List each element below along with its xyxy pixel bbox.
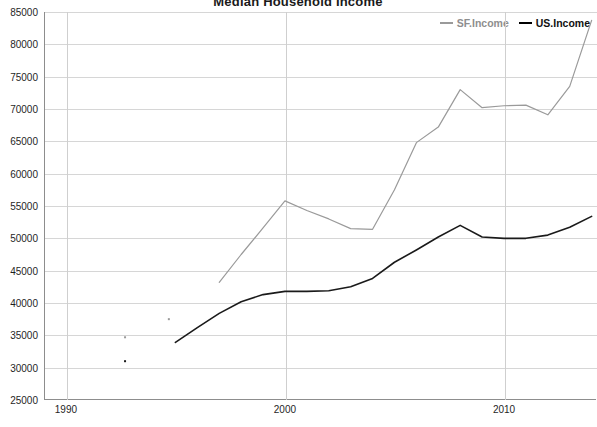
y-tick-label: 80000 [0, 39, 38, 50]
x-tick-label: 1990 [55, 404, 77, 415]
scatter-point [124, 360, 126, 362]
y-tick-label: 75000 [0, 71, 38, 82]
y-tick-label: 25000 [0, 395, 38, 406]
scatter-point [124, 336, 126, 338]
y-tick-label: 35000 [0, 330, 38, 341]
series-line-sf-income [219, 20, 591, 282]
scatter-point [168, 318, 170, 320]
y-tick-label: 60000 [0, 168, 38, 179]
y-tick-label: 65000 [0, 136, 38, 147]
x-tick-label: 2010 [493, 404, 515, 415]
y-tick-label: 40000 [0, 298, 38, 309]
y-tick-label: 45000 [0, 265, 38, 276]
y-tick-label: 85000 [0, 7, 38, 18]
series-lines [44, 12, 596, 400]
y-tick-label: 50000 [0, 233, 38, 244]
chart-title: Median Household Income [0, 0, 596, 9]
y-tick-label: 70000 [0, 104, 38, 115]
x-tick-label: 2000 [274, 404, 296, 415]
y-tick-label: 55000 [0, 201, 38, 212]
y-tick-label: 30000 [0, 362, 38, 373]
series-line-us-income [175, 216, 591, 342]
